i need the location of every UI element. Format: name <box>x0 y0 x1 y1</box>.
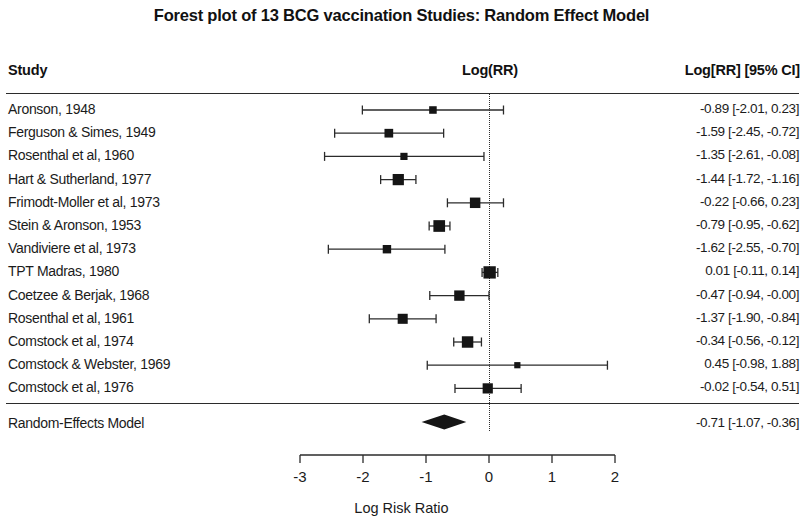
study-ci-row <box>328 245 445 254</box>
study-ci-row <box>430 290 489 300</box>
forest-plot-canvas <box>0 0 803 527</box>
study-ci-row <box>335 129 444 138</box>
study-ci-row <box>455 383 521 393</box>
x-axis-tick-label: 2 <box>595 468 635 485</box>
summary-row-label: Random-Effects Model <box>8 415 144 431</box>
x-axis-tick-label: -2 <box>343 468 383 485</box>
study-ci-row <box>325 152 484 161</box>
x-axis-tick-label: 1 <box>532 468 572 485</box>
study-ci-row <box>429 220 450 232</box>
x-axis <box>300 455 615 463</box>
x-axis-tick-label: -1 <box>406 468 446 485</box>
study-ci-row <box>482 266 498 278</box>
x-axis-title: Log Risk Ratio <box>0 500 803 516</box>
study-ci-row <box>381 174 416 185</box>
study-ci-row <box>427 361 607 370</box>
x-axis-tick-label: -3 <box>280 468 320 485</box>
study-ci-row <box>454 336 482 347</box>
summary-diamond <box>422 415 467 430</box>
summary-row-estimate: -0.71 [-1.07, -0.36] <box>600 415 799 430</box>
study-ci-row <box>362 106 503 115</box>
study-ci-row <box>369 314 436 324</box>
study-ci-row <box>447 198 503 208</box>
x-axis-tick-label: 0 <box>469 468 509 485</box>
